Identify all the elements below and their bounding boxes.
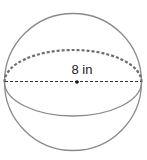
center-point <box>75 80 79 84</box>
equator-front <box>5 82 142 116</box>
sphere-diagram: 8 in <box>0 0 147 160</box>
diameter-label: 8 in <box>72 62 93 77</box>
